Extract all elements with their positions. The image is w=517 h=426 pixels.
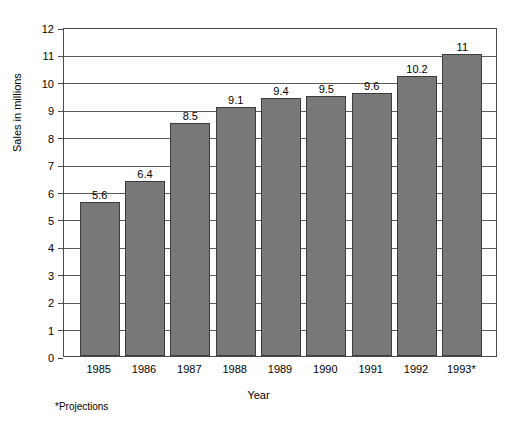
y-axis-tick — [58, 29, 63, 30]
y-axis-tick-label: 12 — [42, 24, 54, 35]
y-axis-tick — [58, 56, 63, 57]
bar: 9.5 — [306, 96, 346, 356]
y-axis-tick — [58, 220, 63, 221]
x-axis-tick-label: 1992 — [404, 363, 428, 375]
y-axis-tick-label: 8 — [48, 133, 54, 144]
y-axis-tick — [58, 330, 63, 331]
bar: 8.5 — [170, 123, 210, 356]
y-axis-tick — [58, 275, 63, 276]
bar: 9.6 — [352, 93, 392, 356]
x-axis-tick-label: 1991 — [358, 363, 382, 375]
y-axis-tick-label: 3 — [48, 270, 54, 281]
y-axis-tick-label: 5 — [48, 215, 54, 226]
x-axis-tick-label: 1985 — [86, 363, 110, 375]
y-axis-tick — [58, 193, 63, 194]
y-axis-tick-label: 1 — [48, 325, 54, 336]
bar: 11 — [442, 54, 482, 356]
bar-value-label: 5.6 — [92, 189, 107, 201]
bar-chart: Sales in millions 0123456789101112 5.66.… — [0, 0, 517, 426]
bar: 9.1 — [216, 107, 256, 356]
bar-value-label: 11 — [457, 41, 468, 53]
x-axis-tick-label: 1988 — [222, 363, 246, 375]
y-axis-tick-label: 10 — [42, 78, 54, 89]
bar: 6.4 — [125, 181, 165, 356]
y-axis-tick-label: 7 — [48, 161, 54, 172]
x-axis-title: Year — [0, 389, 517, 401]
y-axis-tick-label: 9 — [48, 106, 54, 117]
x-axis-tick-label: 1993* — [447, 363, 476, 375]
bar-value-label: 9.4 — [273, 85, 288, 97]
y-axis-tick-label: 0 — [48, 353, 54, 364]
bar: 9.4 — [261, 98, 301, 356]
x-axis-tick-label: 1986 — [132, 363, 156, 375]
y-axis-tick — [58, 166, 63, 167]
x-axis-tick-label: 1989 — [268, 363, 292, 375]
y-axis-tick — [58, 358, 63, 359]
bar-value-label: 10.2 — [406, 63, 427, 75]
bar-value-label: 9.5 — [319, 83, 334, 95]
y-axis-tick — [58, 83, 63, 84]
y-axis-tick — [58, 138, 63, 139]
y-axis-title: Sales in millions — [11, 73, 23, 152]
y-axis-tick — [58, 111, 63, 112]
plot-area: 0123456789101112 5.66.48.59.19.49.59.610… — [63, 28, 497, 357]
y-axis-tick-label: 4 — [48, 243, 54, 254]
y-axis-tick-label: 6 — [48, 188, 54, 199]
bar: 5.6 — [80, 202, 120, 356]
bars-group: 5.66.48.59.19.49.59.610.211 — [64, 29, 496, 356]
bar: 10.2 — [397, 76, 437, 356]
bar-value-label: 8.5 — [183, 110, 198, 122]
y-axis-tick — [58, 303, 63, 304]
x-axis-tick-label: 1990 — [313, 363, 337, 375]
bar-value-label: 9.6 — [364, 80, 379, 92]
y-axis-tick — [58, 248, 63, 249]
bar-value-label: 9.1 — [228, 94, 243, 106]
y-axis-tick-label: 2 — [48, 298, 54, 309]
bar-value-label: 6.4 — [137, 168, 152, 180]
y-axis-tick-label: 11 — [43, 51, 54, 62]
footnote: *Projections — [55, 401, 108, 412]
x-axis-tick-label: 1987 — [177, 363, 201, 375]
